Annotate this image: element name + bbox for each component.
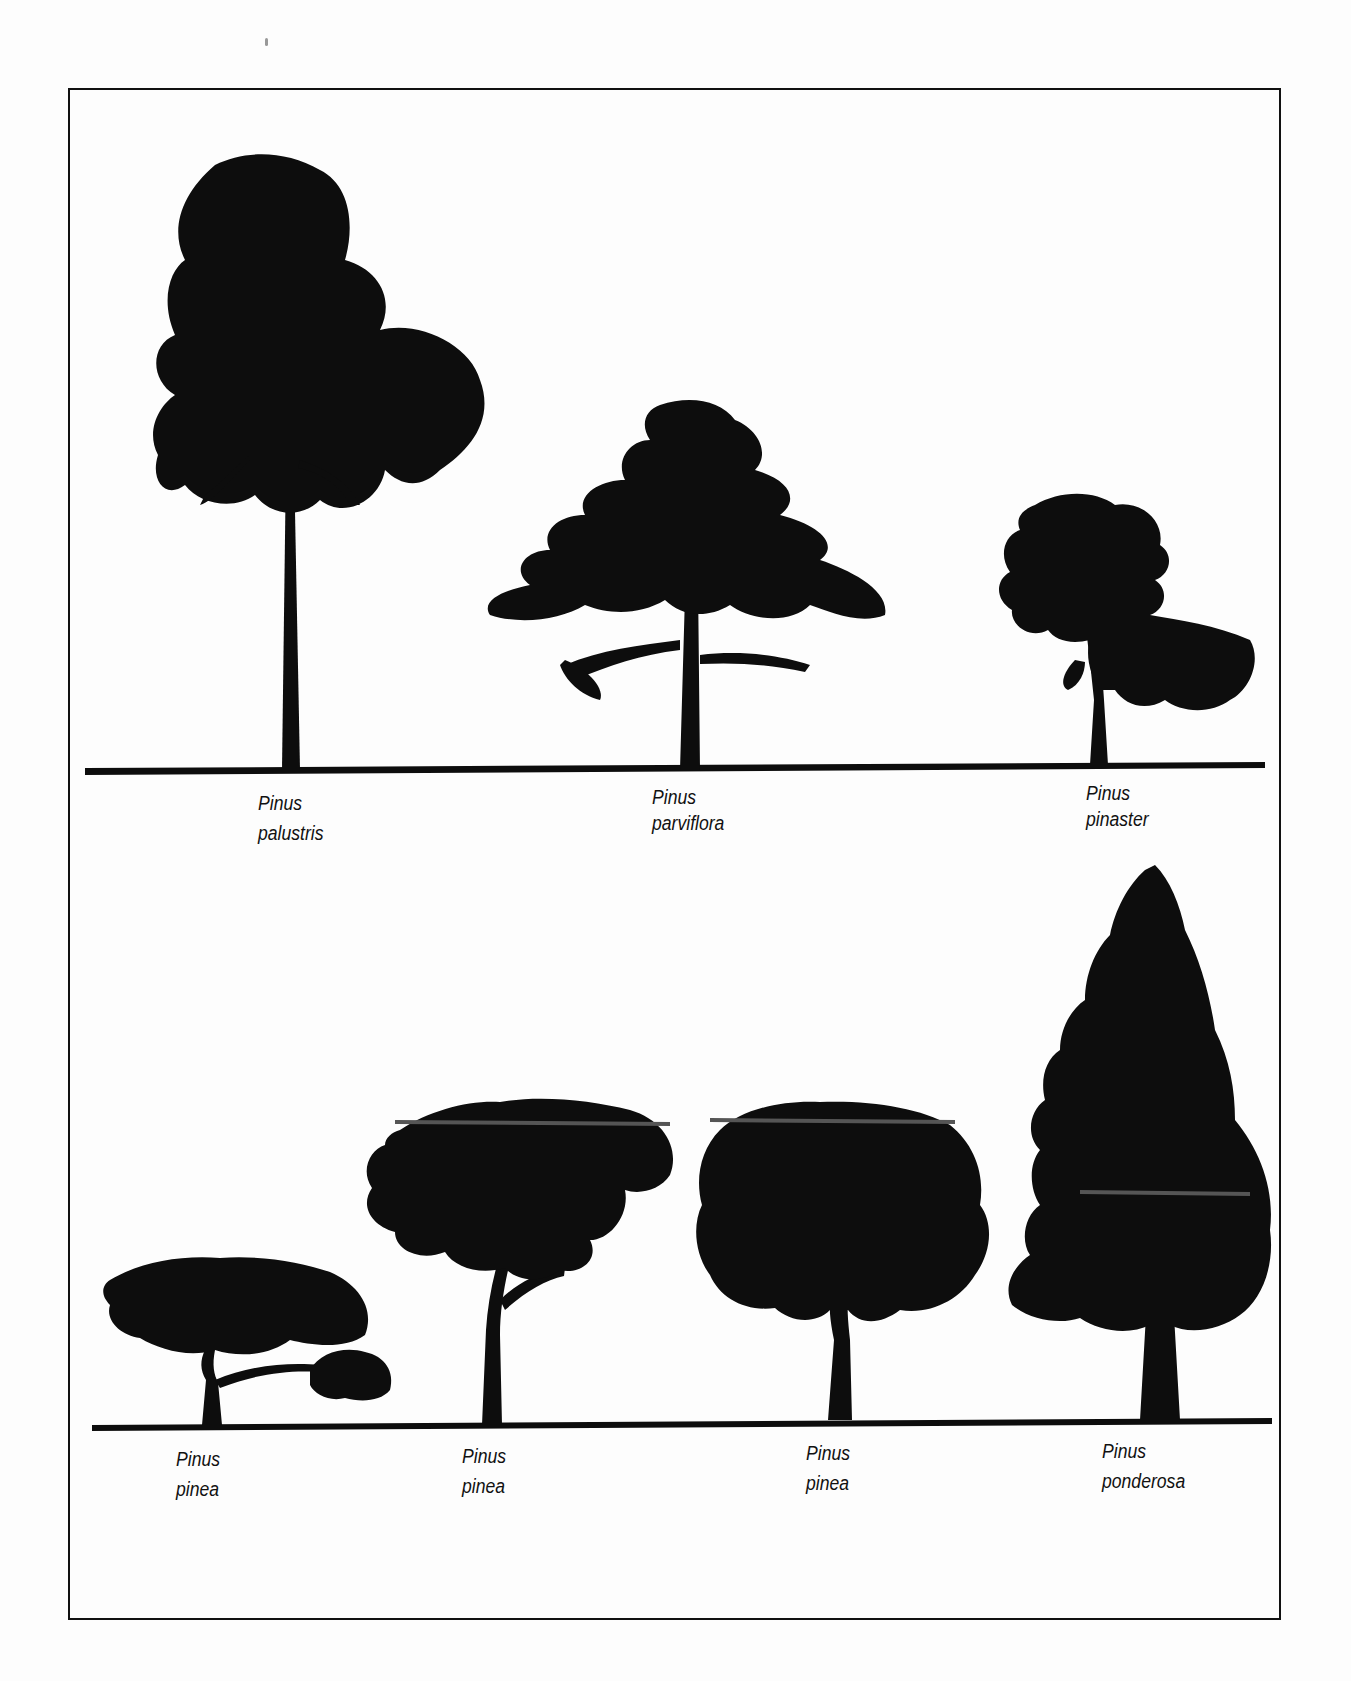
species-text: pinaster	[1086, 804, 1149, 834]
tree-pinea-2-icon	[367, 1099, 673, 1425]
bottom-ground-line	[92, 1418, 1272, 1431]
label-ponderosa: Pinus ponderosa	[1102, 1436, 1185, 1496]
tree-silhouettes	[0, 0, 1351, 1681]
tree-ponderosa-icon	[1008, 865, 1271, 1420]
species-text: parviflora	[652, 808, 724, 838]
species-text: pinea	[462, 1471, 506, 1501]
species-text: palustris	[258, 818, 324, 848]
genus-text: Pinus	[806, 1438, 850, 1468]
label-pinea-1: Pinus pinea	[176, 1444, 220, 1504]
genus-text: Pinus	[462, 1441, 506, 1471]
genus-text: Pinus	[258, 788, 324, 818]
tree-pinea-1-icon	[103, 1257, 391, 1425]
tree-parviflora-icon	[488, 400, 886, 770]
species-text: pinea	[806, 1468, 850, 1498]
species-text: pinea	[176, 1474, 220, 1504]
tree-pinaster-icon	[999, 494, 1255, 765]
label-pinea-2: Pinus pinea	[462, 1441, 506, 1501]
label-pinaster: Pinus pinaster	[1086, 778, 1149, 834]
species-text: ponderosa	[1102, 1466, 1185, 1496]
genus-text: Pinus	[1102, 1436, 1185, 1466]
tree-palustris-icon	[153, 154, 484, 770]
tree-pinea-3-icon	[696, 1102, 989, 1420]
label-pinea-3: Pinus pinea	[806, 1438, 850, 1498]
genus-text: Pinus	[176, 1444, 220, 1474]
top-ground-line	[85, 762, 1265, 775]
label-parviflora: Pinus parviflora	[652, 782, 724, 838]
label-palustris: Pinus palustris	[258, 788, 324, 848]
